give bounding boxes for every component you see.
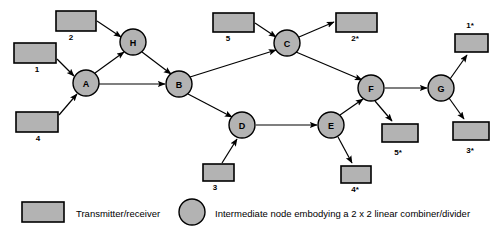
terminal-4star: 4* <box>341 166 371 194</box>
terminal-label: 1* <box>466 21 474 30</box>
terminal-box <box>16 112 58 132</box>
edge-B-to-C <box>190 50 276 77</box>
terminal-box <box>56 11 96 31</box>
terminal-label: 1 <box>35 65 40 74</box>
terminal-box <box>341 166 371 183</box>
node-H: H <box>120 29 146 55</box>
edge-F-to-t5s <box>375 101 392 121</box>
node-label: C <box>284 39 291 49</box>
edge-t4-to-A <box>59 94 77 115</box>
terminal-label: 4 <box>36 134 41 143</box>
node-label: B <box>176 80 183 90</box>
node-C: C <box>274 30 300 56</box>
terminal-label: 3 <box>213 183 218 192</box>
edge-G-to-t3s <box>449 98 464 119</box>
terminal-box <box>382 124 418 142</box>
terminal-3: 3 <box>203 164 234 192</box>
edge-t3-to-D <box>222 139 237 163</box>
legend-node: Intermediate node embodying a 2 x 2 line… <box>179 199 470 225</box>
terminal-label: 4* <box>351 185 359 194</box>
terminal-box <box>455 34 488 52</box>
edge-E-to-t4s <box>338 137 352 163</box>
legend-transmitter: Transmitter/receiver <box>22 202 160 222</box>
terminal-label: 5 <box>226 34 231 43</box>
edge-G-to-t1s <box>450 55 467 79</box>
terminal-5star: 5* <box>382 124 418 157</box>
edge-B-to-D <box>188 94 232 117</box>
node-A: A <box>73 70 99 96</box>
terminal-label: 2* <box>351 34 359 43</box>
terminal-label: 2 <box>69 33 74 42</box>
node-D: D <box>229 112 255 138</box>
node-label: H <box>130 38 137 48</box>
node-label: G <box>437 84 444 94</box>
node-label: F <box>368 84 374 94</box>
edge-E-to-F <box>340 99 363 115</box>
edge-t5-to-C <box>255 23 276 37</box>
terminal-2: 2 <box>56 11 96 42</box>
legend-circle-swatch <box>179 199 205 225</box>
edge-A-to-H <box>95 52 124 73</box>
terminal-label: 5* <box>394 148 402 157</box>
edge-t2-to-H <box>97 21 121 37</box>
terminal-box <box>14 43 56 63</box>
legend-rect-swatch <box>22 202 64 222</box>
terminal-box <box>213 13 254 32</box>
terminal-label: 3* <box>466 146 474 155</box>
node-label: D <box>239 121 246 131</box>
edge-C-to-F <box>296 52 362 80</box>
terminal-box <box>203 164 234 181</box>
terminal-2star: 2* <box>336 13 377 43</box>
terminal-1: 1 <box>14 43 56 74</box>
node-G: G <box>428 75 454 101</box>
diagram-canvas: 12452*34*5*1*3* AHBCDEFG Transmitter/rec… <box>0 0 501 235</box>
legend-label: Transmitter/receiver <box>76 208 160 219</box>
terminal-box <box>453 122 489 140</box>
terminal-1star: 1* <box>455 21 488 52</box>
edge-t1-to-A <box>57 59 74 76</box>
terminal-5: 5 <box>213 13 254 43</box>
node-label: A <box>83 79 90 89</box>
legend-label: Intermediate node embodying a 2 x 2 line… <box>215 208 470 219</box>
terminals-group: 12452*34*5*1*3* <box>14 11 489 194</box>
node-E: E <box>318 112 344 138</box>
node-label: E <box>328 121 334 131</box>
edge-H-to-B <box>142 52 171 74</box>
edge-C-to-t2s <box>299 22 334 37</box>
terminal-box <box>336 13 377 32</box>
terminal-3star: 3* <box>453 122 489 155</box>
node-B: B <box>166 71 192 97</box>
node-F: F <box>358 75 384 101</box>
terminal-4: 4 <box>16 112 58 143</box>
network-diagram: 12452*34*5*1*3* AHBCDEFG Transmitter/rec… <box>0 0 501 235</box>
legend-group: Transmitter/receiverIntermediate node em… <box>22 199 470 225</box>
